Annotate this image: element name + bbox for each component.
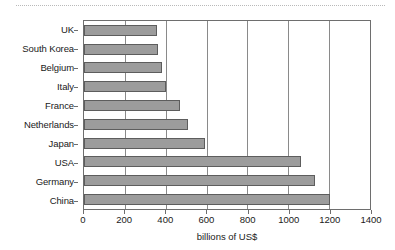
x-axis-tick-label-1400: 1400 [360,215,381,225]
bar-netherlands [84,119,188,130]
bar-uk [84,25,157,36]
y-axis-tick [74,201,78,202]
y-axis-label-netherlands: Netherlands [0,115,78,134]
x-axis-tick-label-1000: 1000 [278,215,299,225]
bar-germany [84,175,315,186]
figure: UKSouth KoreaBelgiumItalyFranceNetherlan… [0,0,395,250]
y-axis-tick [74,106,78,107]
bar-row [84,190,370,209]
y-axis-category-labels: UKSouth KoreaBelgiumItalyFranceNetherlan… [0,20,78,210]
plot-area [83,20,371,210]
y-axis-tick [74,49,78,50]
y-axis-tick [74,87,78,88]
bar-row [84,40,370,59]
y-axis-label-china: China [0,191,78,210]
y-axis-label-germany: Germany [0,172,78,191]
y-axis-label-belgium: Belgium [0,58,78,77]
y-axis-tick [74,144,78,145]
y-axis-tick [74,125,78,126]
bar-row [84,96,370,115]
x-axis-tick-label-600: 600 [198,215,214,225]
x-axis-title: billions of US$ [83,232,371,242]
bar-belgium [84,62,162,73]
y-axis-tick [74,30,78,31]
x-axis-tick-label-800: 800 [240,215,256,225]
x-axis-tick-label-1200: 1200 [319,215,340,225]
bar-south-korea [84,44,158,55]
bar-chart: UKSouth KoreaBelgiumItalyFranceNetherlan… [0,18,395,250]
y-axis-label-italy: Italy [0,77,78,96]
bar-italy [84,81,166,92]
x-axis-tick-labels: 0200400600800100012001400 [0,215,395,229]
bar-row [84,59,370,78]
bar-usa [84,156,301,167]
bar-row [84,21,370,40]
bar-row [84,115,370,134]
y-axis-tick [74,68,78,69]
y-axis-tick [74,182,78,183]
y-axis-label-south-korea: South Korea [0,39,78,58]
bar-row [84,77,370,96]
bar-japan [84,138,205,149]
bar-china [84,194,330,205]
y-axis-label-france: France [0,96,78,115]
y-axis-tick [74,163,78,164]
y-axis-label-usa: USA [0,153,78,172]
y-axis-label-uk: UK [0,20,78,39]
y-axis-label-japan: Japan [0,134,78,153]
bar-row [84,134,370,153]
x-axis-tick-label-400: 400 [157,215,173,225]
bar-row [84,153,370,172]
bar-france [84,100,180,111]
bar-row [84,171,370,190]
x-axis-tick-label-0: 0 [80,215,85,225]
dotted-divider [16,5,385,6]
x-axis-tick-label-200: 200 [116,215,132,225]
bar-rows [84,21,370,209]
